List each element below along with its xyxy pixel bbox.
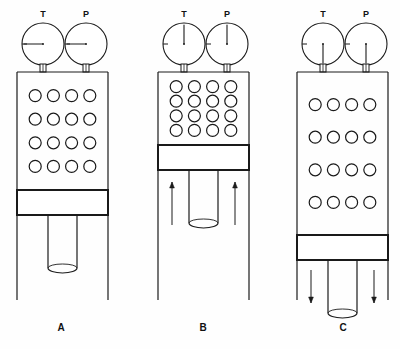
arrow-head-icon (233, 182, 238, 188)
gas-molecule (346, 164, 358, 176)
piston-rod[interactable] (48, 215, 77, 273)
gas-molecule (327, 164, 339, 176)
motion-arrow-up (170, 182, 175, 225)
gas-molecule (207, 95, 219, 107)
gas-molecule (170, 81, 182, 93)
gas-molecule (207, 124, 219, 136)
gauge-p-b[interactable]: P (206, 9, 248, 72)
gas-piston-diagram-svg: TPATPBTPC (0, 0, 400, 349)
gas-molecule (188, 110, 200, 122)
gauge-label-t: T (40, 9, 46, 19)
piston-plate[interactable] (17, 190, 108, 215)
gauge-t-b[interactable]: T (163, 9, 205, 72)
gauge-hub-icon (183, 43, 185, 45)
piston-rod-bottom-front (48, 268, 77, 273)
gas-molecule (346, 99, 358, 111)
gas-molecule (66, 160, 78, 172)
gauge-label-p: P (224, 9, 230, 19)
gas-molecule (364, 131, 376, 143)
gas-molecule (309, 196, 321, 208)
gas-molecule (84, 137, 96, 149)
motion-arrow-down (309, 270, 314, 303)
gauge-label-p: P (363, 9, 369, 19)
gauge-hub-icon (226, 43, 228, 45)
gauge-p-a[interactable]: P (65, 9, 107, 72)
gas-molecule (84, 160, 96, 172)
piston-rod-bottom-back (48, 264, 77, 268)
gas-molecule (346, 196, 358, 208)
gas-molecule (170, 124, 182, 136)
gas-molecule (309, 164, 321, 176)
panel-label-a: A (57, 322, 64, 333)
panel-b: TP (158, 9, 249, 300)
gas-molecule (364, 99, 376, 111)
panel-a: TP (17, 9, 108, 300)
gas-molecule (29, 90, 41, 102)
gas-molecule (225, 95, 237, 107)
piston-rod[interactable] (328, 260, 357, 318)
arrow-head-icon (372, 297, 377, 303)
panel-label-c: C (339, 322, 346, 333)
gauge-p-c[interactable]: P (345, 9, 387, 72)
arrow-head-icon (309, 297, 314, 303)
piston-plate[interactable] (158, 145, 249, 170)
gas-molecule (364, 196, 376, 208)
molecule-grid (309, 99, 376, 209)
piston-rod-bottom-back (189, 219, 218, 223)
gas-molecule (47, 90, 59, 102)
molecule-grid (170, 81, 237, 137)
piston-rod-bottom-front (189, 223, 218, 228)
gas-molecule (309, 99, 321, 111)
arrow-head-icon (170, 182, 175, 188)
gauge-hub-icon (42, 43, 44, 45)
gauge-t-a[interactable]: T (22, 9, 64, 72)
gauge-label-t: T (320, 9, 326, 19)
gas-molecule (170, 95, 182, 107)
gas-molecule (66, 137, 78, 149)
gauge-label-p: P (83, 9, 89, 19)
molecule-grid (29, 90, 96, 173)
gas-molecule (188, 81, 200, 93)
gas-molecule (84, 90, 96, 102)
gas-molecule (188, 95, 200, 107)
gas-molecule (29, 160, 41, 172)
piston-plate[interactable] (297, 235, 388, 260)
motion-arrow-down (372, 270, 377, 303)
piston-rod[interactable] (189, 170, 218, 228)
motion-arrow-up (233, 182, 238, 225)
gas-molecule (66, 113, 78, 125)
gas-molecule (29, 113, 41, 125)
gas-molecule (66, 90, 78, 102)
gauge-hub-icon (365, 43, 367, 45)
figure-canvas: TPATPBTPC (0, 0, 400, 349)
gas-molecule (47, 160, 59, 172)
gas-molecule (207, 110, 219, 122)
piston-rod-bottom-back (328, 309, 357, 313)
gas-molecule (327, 196, 339, 208)
gas-molecule (309, 131, 321, 143)
gas-molecule (84, 113, 96, 125)
gas-molecule (364, 164, 376, 176)
panel-c: TP (297, 9, 388, 318)
gas-molecule (29, 137, 41, 149)
gas-molecule (170, 110, 182, 122)
gas-molecule (47, 137, 59, 149)
gauge-label-t: T (181, 9, 187, 19)
panel-label-b: B (199, 322, 206, 333)
gauge-hub-icon (322, 43, 324, 45)
gas-molecule (225, 110, 237, 122)
gas-molecule (225, 81, 237, 93)
piston-rod-bottom-front (328, 313, 357, 318)
gas-molecule (47, 113, 59, 125)
gauge-t-c[interactable]: T (302, 9, 344, 72)
gas-molecule (188, 124, 200, 136)
gas-molecule (225, 124, 237, 136)
gas-molecule (207, 81, 219, 93)
gas-molecule (346, 131, 358, 143)
gas-molecule (327, 131, 339, 143)
gauge-hub-icon (85, 43, 87, 45)
gas-molecule (327, 99, 339, 111)
